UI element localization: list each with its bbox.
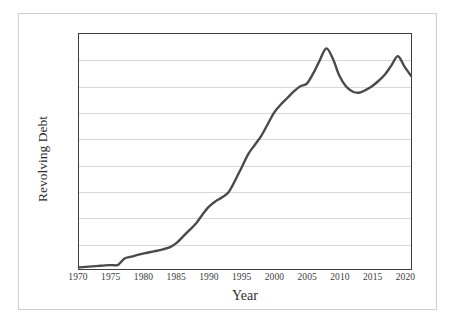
x-axis-tick-label: 2015	[363, 272, 382, 282]
x-axis-tick-label: 1990	[199, 272, 218, 282]
x-axis-tick-label: 2010	[330, 272, 349, 282]
x-axis-title: Year	[78, 288, 412, 304]
x-axis-tick-label: 1975	[101, 272, 120, 282]
chart-figure: Revolving Debt $9,000$8,000$7,000$6,000$…	[0, 0, 454, 324]
revolving-debt-line	[79, 48, 411, 267]
x-axis-tick-label: 1980	[134, 272, 153, 282]
x-axis-tick-label: 2005	[298, 272, 317, 282]
x-axis-tick-label: 1970	[68, 272, 87, 282]
x-axis-tick-label: 2000	[265, 272, 284, 282]
plot-area	[78, 33, 412, 270]
x-axis-tick-label: 2020	[396, 272, 415, 282]
line-series	[79, 34, 411, 269]
x-axis-tick-label: 1995	[232, 272, 251, 282]
x-axis-tick-label: 1985	[167, 272, 186, 282]
